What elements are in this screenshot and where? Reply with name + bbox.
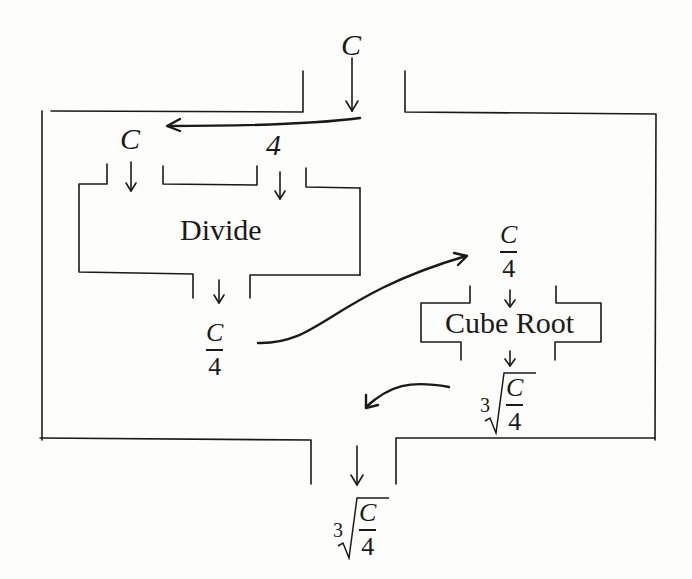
cube-root-input-fraction: C 4 xyxy=(500,222,517,282)
diagram-lines xyxy=(0,0,692,579)
machine-output: 3 C 4 xyxy=(333,496,393,560)
fraction-denominator: 4 xyxy=(502,256,515,282)
fraction-numerator: C xyxy=(506,375,523,401)
divide-input-4: 4 xyxy=(266,130,281,160)
fraction-bar xyxy=(206,349,223,351)
fraction-numerator: C xyxy=(500,222,517,248)
radicand-fraction: C 4 xyxy=(359,500,376,560)
cube-root-output: 3 C 4 xyxy=(480,371,540,435)
function-machine-diagram: C C 4 Divide C 4 C 4 Cube Root 3 C 4 3 xyxy=(0,0,692,579)
machine-input-c: C xyxy=(341,30,361,60)
divide-output-fraction: C 4 xyxy=(206,320,223,380)
divide-input-c: C xyxy=(120,124,140,154)
fraction-bar xyxy=(506,404,523,406)
fraction-numerator: C xyxy=(359,500,376,526)
fraction-denominator: 4 xyxy=(361,534,374,560)
fraction-denominator: 4 xyxy=(208,354,221,380)
cube-root-box-label: Cube Root xyxy=(445,308,574,338)
divide-box-label: Divide xyxy=(180,215,262,245)
fraction-numerator: C xyxy=(206,320,223,346)
radicand-fraction: C 4 xyxy=(506,375,523,435)
fraction-bar xyxy=(500,251,517,253)
fraction-bar xyxy=(359,529,376,531)
fraction-denominator: 4 xyxy=(508,409,521,435)
